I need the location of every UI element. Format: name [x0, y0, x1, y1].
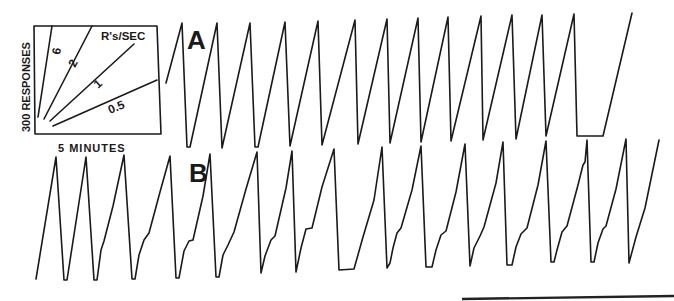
- rate-line-label: 1: [91, 76, 106, 91]
- x-axis-scale-label: 5 MINUTES: [58, 142, 126, 154]
- rate-line-label: 2: [65, 57, 81, 70]
- rate-key-inset: 6210.5 R's/SEC 300 RESPONSES 5 MINUTES: [20, 26, 161, 154]
- scan-edge-line: [462, 296, 674, 299]
- rate-line-label: 6: [49, 46, 64, 55]
- cumulative-record-figure: 6210.5 R's/SEC 300 RESPONSES 5 MINUTES A…: [0, 0, 674, 301]
- rate-line: [38, 26, 52, 117]
- rate-units-label: R's/SEC: [101, 30, 145, 42]
- panel-label-a: A: [187, 25, 206, 55]
- rate-line-label: 0.5: [106, 97, 127, 116]
- cumulative-record-b: [36, 139, 659, 280]
- cumulative-record-a: [166, 13, 632, 148]
- y-axis-scale-label: 300 RESPONSES: [20, 42, 32, 132]
